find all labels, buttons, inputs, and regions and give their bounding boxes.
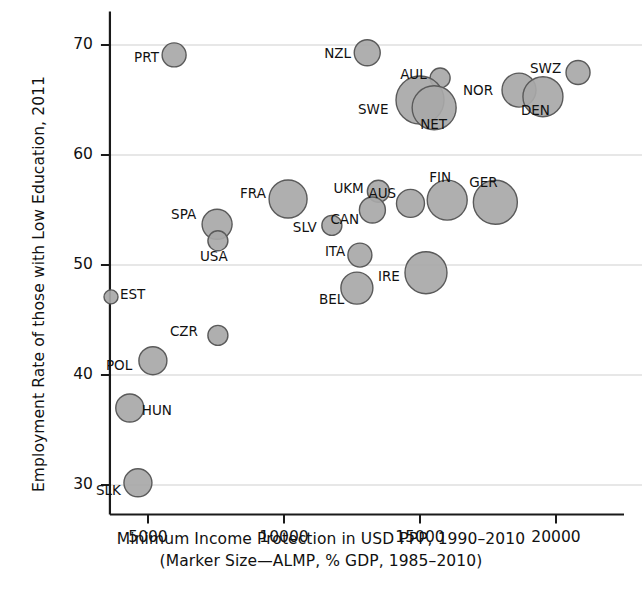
bubble-aus[interactable] (396, 189, 424, 217)
bubble-slk[interactable] (124, 469, 152, 497)
bubble-label-ger: GER (469, 174, 497, 190)
x-tick-label: 20000 (511, 528, 601, 546)
y-tick-label: 30 (53, 475, 93, 493)
bubble-label-est: EST (120, 286, 145, 302)
bubble-est[interactable] (104, 290, 118, 304)
bubble-czr[interactable] (208, 325, 228, 345)
bubble-pol[interactable] (139, 347, 167, 375)
bubble-label-ita: ITA (325, 243, 345, 259)
x-tick-label: 5000 (103, 528, 193, 546)
x-axis-subtitle: (Marker Size—ALMP, % GDP, 1985–2010) (0, 552, 642, 570)
x-tick-label: 10000 (239, 528, 329, 546)
bubble-label-ukm: UKM (333, 180, 363, 196)
y-tick-label: 70 (53, 35, 93, 53)
bubble-label-fin: FIN (429, 169, 451, 185)
bubble-label-usa: USA (200, 248, 228, 264)
bubble-label-aul: AUL (400, 66, 427, 82)
bubble-ita[interactable] (348, 243, 372, 267)
bubble-label-swz: SWZ (530, 60, 561, 76)
bubble-label-czr: CZR (170, 323, 198, 339)
bubble-label-den: DEN (521, 102, 550, 118)
y-tick-label: 60 (53, 145, 93, 163)
bubble-label-slv: SLV (293, 219, 317, 235)
x-tick-label: 15000 (375, 528, 465, 546)
y-tick-label: 50 (53, 255, 93, 273)
bubble-label-net: NET (420, 116, 447, 132)
bubble-label-pol: POL (106, 357, 132, 373)
bubble-label-aus: AUS (368, 185, 396, 201)
y-axis-title: Employment Rate of those with Low Educat… (30, 49, 48, 519)
bubble-label-slk: SLK (96, 482, 121, 498)
bubble-chart-figure: Employment Rate of those with Low Educat… (0, 0, 642, 609)
data-bubbles (104, 40, 590, 497)
bubble-nzl[interactable] (354, 40, 380, 66)
bubble-hun[interactable] (116, 394, 144, 422)
bubble-fra[interactable] (269, 180, 307, 218)
bubble-label-can: CAN (330, 211, 359, 227)
bubble-swz[interactable] (566, 61, 590, 85)
bubble-label-nzl: NZL (324, 45, 351, 61)
bubble-label-fra: FRA (240, 185, 266, 201)
y-tick-label: 40 (53, 365, 93, 383)
bubble-prt[interactable] (162, 43, 186, 67)
bubble-fin[interactable] (427, 180, 467, 220)
bubble-label-hun: HUN (142, 402, 172, 418)
bubble-bel[interactable] (341, 272, 373, 304)
bubble-label-spa: SPA (171, 206, 196, 222)
bubble-ire[interactable] (405, 252, 447, 294)
bubble-label-swe: SWE (358, 101, 388, 117)
bubble-label-prt: PRT (134, 49, 159, 65)
tick-marks (101, 45, 556, 524)
bubble-label-ire: IRE (378, 268, 400, 284)
bubble-label-bel: BEL (319, 291, 344, 307)
bubble-label-nor: NOR (463, 82, 493, 98)
